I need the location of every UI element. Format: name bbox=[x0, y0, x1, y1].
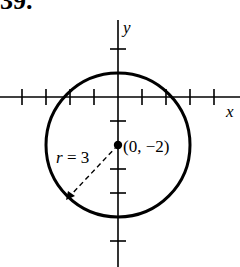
center-point bbox=[114, 141, 122, 149]
y-axis-label: y bbox=[121, 18, 131, 37]
center-label: (0, −2) bbox=[123, 137, 169, 156]
figure: 39. y x bbox=[0, 0, 240, 267]
circle-graph: y x (0, −2) r = 3 bbox=[0, 0, 240, 267]
problem-number: 39. bbox=[0, 0, 33, 16]
radius-label: r = 3 bbox=[56, 148, 89, 167]
x-axis-label: x bbox=[225, 102, 234, 121]
